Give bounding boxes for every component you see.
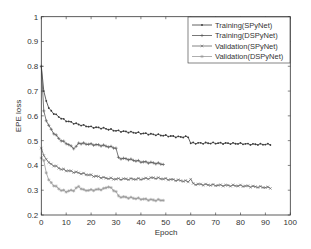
y-axis-label: EPE loss	[14, 100, 23, 132]
legend-label: Validation(SPyNet)	[215, 42, 278, 51]
x-tick-label: 10	[62, 218, 71, 227]
y-tick-label: 0.4	[27, 161, 39, 170]
y-tick-label: 0.7	[27, 87, 39, 96]
x-tick-label: 70	[211, 218, 220, 227]
y-tick-label: 1	[34, 13, 39, 22]
y-tick-label: 0.8	[27, 62, 39, 71]
x-tick-label: 20	[87, 218, 96, 227]
loss-chart: 01020304050607080901000.20.30.40.50.60.7…	[0, 0, 311, 249]
x-tick-label: 100	[284, 218, 298, 227]
x-tick-label: 30	[112, 218, 121, 227]
x-tick-label: 40	[136, 218, 145, 227]
legend-label: Training(SPyNet)	[215, 21, 273, 30]
x-tick-label: 90	[261, 218, 270, 227]
x-tick-label: 50	[161, 218, 170, 227]
x-axis-label: Epoch	[155, 228, 178, 237]
legend: Training(SPyNet)Training(DSPyNet)Validat…	[188, 17, 290, 63]
y-tick-label: 0.6	[27, 112, 39, 121]
x-tick-label: 80	[236, 218, 245, 227]
y-tick-label: 0.9	[27, 37, 39, 46]
legend-label: Validation(DSPyNet)	[215, 52, 284, 61]
y-tick-label: 0.3	[27, 186, 39, 195]
x-tick-label: 60	[186, 218, 195, 227]
legend-label: Training(DSPyNet)	[215, 31, 278, 40]
x-tick-label: 0	[39, 218, 44, 227]
y-tick-label: 0.2	[27, 211, 39, 220]
y-tick-label: 0.5	[27, 137, 39, 146]
